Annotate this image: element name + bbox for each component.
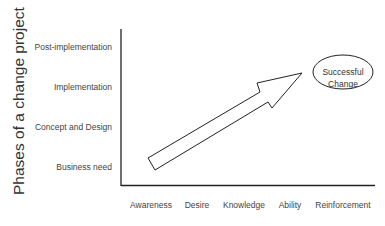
x-tick-ability: Ability [279,200,302,210]
x-tick-knowledge: Knowledge [223,200,265,210]
successful-change-label: Successful Change [312,66,374,90]
x-tick-reinforcement: Reinforcement [315,200,370,210]
x-tick-awareness: Awareness [130,200,172,210]
goal-line-2: Change [312,78,374,90]
progress-arrow-icon [148,73,302,170]
goal-line-1: Successful [312,66,374,78]
x-tick-desire: Desire [185,200,210,210]
diagram-canvas [0,0,385,226]
